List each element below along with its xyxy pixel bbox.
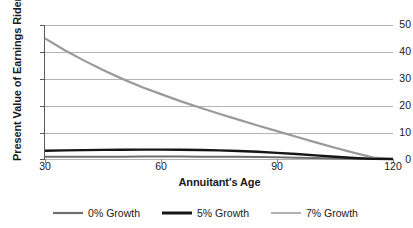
- x-tick-label-30: 30: [25, 161, 65, 172]
- legend-item-0pct[interactable]: 0% Growth: [53, 207, 140, 219]
- x-axis-title: Annuitant's Age: [45, 176, 394, 189]
- chart-legend: 0% Growth 5% Growth 7% Growth: [0, 205, 411, 221]
- legend-item-7pct[interactable]: 7% Growth: [271, 207, 358, 219]
- legend-label-0pct: 0% Growth: [88, 207, 140, 219]
- legend-swatch-5pct: [162, 210, 192, 216]
- series-line-7pct: [45, 38, 393, 159]
- x-tick-label-90: 90: [257, 161, 297, 172]
- y-axis-title: Present Value of Earnings Rider: [10, 1, 24, 161]
- legend-label-7pct: 7% Growth: [306, 207, 358, 219]
- legend-label-5pct: 5% Growth: [197, 207, 249, 219]
- x-tick-label-60: 60: [141, 161, 181, 172]
- series-lines: [45, 25, 393, 159]
- legend-swatch-0pct: [53, 210, 83, 216]
- plot-area: [45, 25, 393, 159]
- legend-swatch-7pct: [271, 210, 301, 216]
- x-tick-label-120: 120: [373, 161, 413, 172]
- legend-item-5pct[interactable]: 5% Growth: [162, 207, 249, 219]
